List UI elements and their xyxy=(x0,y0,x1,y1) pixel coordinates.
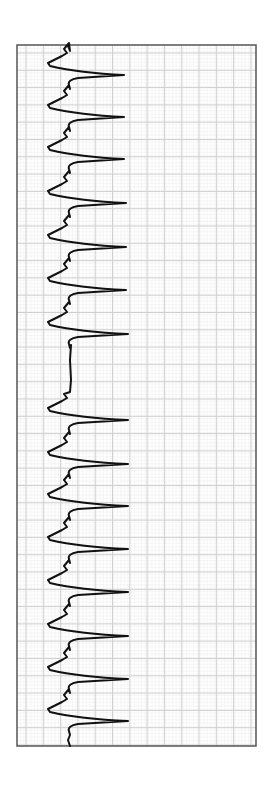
ecg-strip-chart xyxy=(0,0,272,791)
